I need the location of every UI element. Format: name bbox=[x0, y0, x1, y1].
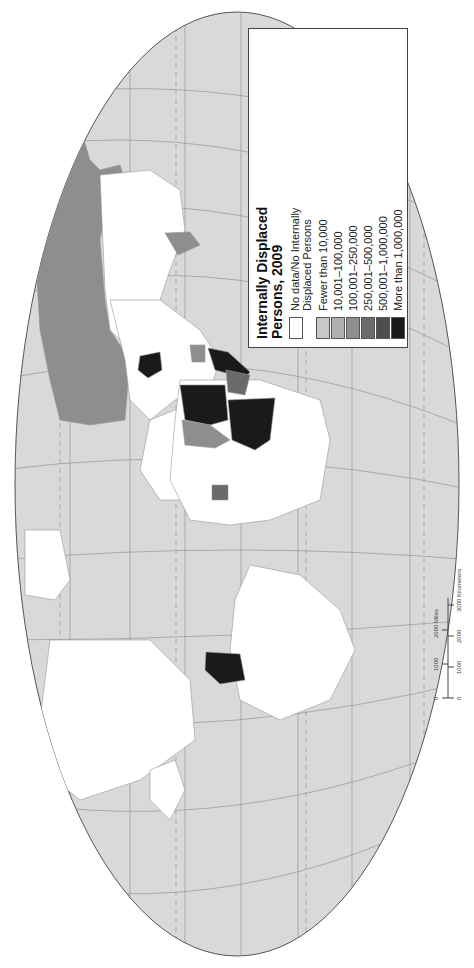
legend-item: 250,001–500,000 bbox=[360, 37, 375, 339]
legend-item-no-data: No data/No InternallyDisplaced Persons bbox=[289, 37, 315, 339]
legend-swatch bbox=[346, 317, 360, 339]
scale-bar-graphic bbox=[432, 568, 472, 708]
legend-item: 10,001–100,000 bbox=[330, 37, 345, 339]
legend-item: 100,001–250,000 bbox=[345, 37, 360, 339]
legend-title: Internally Displaced Persons, 2009 bbox=[255, 37, 285, 339]
legend-swatch bbox=[331, 317, 345, 339]
legend-item: Fewer than 10,000 bbox=[315, 37, 330, 339]
legend-swatch bbox=[391, 317, 405, 339]
legend-swatch bbox=[289, 317, 303, 339]
legend-item: More than 1,000,000 bbox=[390, 37, 405, 339]
map-legend: Internally Displaced Persons, 2009 No da… bbox=[248, 28, 408, 348]
world-map: Internally Displaced Persons, 2009 No da… bbox=[0, 0, 474, 968]
legend-swatch bbox=[316, 317, 330, 339]
legend-swatch bbox=[376, 317, 390, 339]
legend-swatch bbox=[361, 317, 375, 339]
legend-item: 500,001–1,000,000 bbox=[375, 37, 390, 339]
scale-bar: 0 1000 2000 Miles 0 1000 2000 3000 Kilom… bbox=[432, 568, 472, 708]
